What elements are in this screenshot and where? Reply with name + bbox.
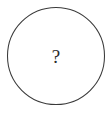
node-label-container: ? — [0, 0, 112, 113]
figure-canvas: ? — [0, 0, 112, 113]
question-mark-label: ? — [52, 47, 60, 66]
